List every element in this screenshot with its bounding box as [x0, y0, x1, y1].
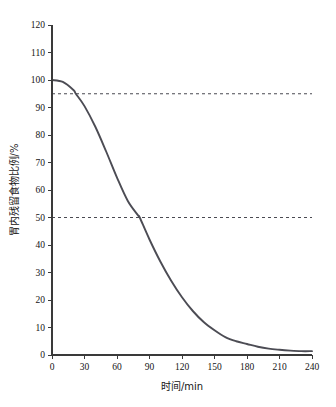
chart-background	[0, 0, 336, 407]
y-tick-label: 80	[36, 130, 46, 140]
x-tick-label: 180	[240, 362, 255, 372]
x-tick-label: 30	[80, 362, 90, 372]
y-tick-label: 40	[36, 240, 46, 250]
y-tick-label: 110	[31, 48, 45, 58]
x-tick-label: 210	[272, 362, 287, 372]
x-axis-label: 时间/min	[161, 380, 203, 392]
stomach-retention-line-chart: 0102030405060708090100110120 03060901201…	[0, 0, 336, 407]
x-tick-label: 120	[175, 362, 190, 372]
x-tick-label: 0	[50, 362, 55, 372]
y-tick-label: 100	[31, 75, 46, 85]
y-tick-label: 60	[36, 185, 46, 195]
x-tick-label: 60	[112, 362, 122, 372]
y-tick-label: 70	[36, 158, 46, 168]
y-tick-label: 120	[31, 20, 46, 30]
y-tick-label: 0	[40, 350, 45, 360]
x-tick-label: 240	[305, 362, 320, 372]
y-tick-label: 20	[36, 295, 46, 305]
y-tick-label: 50	[36, 213, 46, 223]
y-tick-label: 10	[36, 323, 46, 333]
chart-container: 0102030405060708090100110120 03060901201…	[0, 0, 336, 407]
y-tick-label: 90	[36, 103, 46, 113]
x-tick-label: 150	[207, 362, 222, 372]
y-tick-label: 30	[36, 268, 46, 278]
y-axis-label: 胃内残留食物比例/%	[8, 144, 20, 237]
x-tick-label: 90	[145, 362, 155, 372]
